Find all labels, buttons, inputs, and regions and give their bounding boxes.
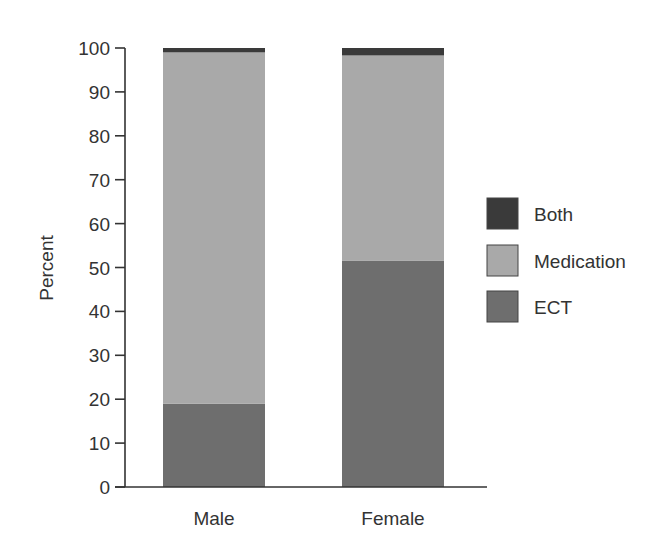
y-tick-label: 60 <box>89 214 110 235</box>
bar-female <box>342 48 444 487</box>
legend-label-ect: ECT <box>534 297 572 318</box>
y-tick-label: 40 <box>89 301 110 322</box>
bar-male <box>163 48 265 487</box>
y-tick-label: 0 <box>99 477 110 498</box>
bar-segment-ect <box>163 404 265 487</box>
legend: BothMedicationECT <box>487 198 626 322</box>
y-tick-label: 30 <box>89 345 110 366</box>
x-category-label: Male <box>193 508 234 529</box>
y-axis: 0102030405060708090100 <box>78 38 125 498</box>
bar-segment-both <box>342 48 444 55</box>
legend-label-medication: Medication <box>534 251 626 272</box>
bar-segment-ect <box>342 261 444 487</box>
bar-segment-medication <box>342 55 444 260</box>
y-tick-label: 80 <box>89 126 110 147</box>
y-axis-title: Percent <box>36 235 57 301</box>
x-axis: MaleFemale <box>115 487 487 529</box>
stacked-bar-chart: 0102030405060708090100 MaleFemale Percen… <box>0 0 672 545</box>
x-category-label: Female <box>361 508 424 529</box>
y-tick-label: 90 <box>89 82 110 103</box>
y-tick-label: 20 <box>89 389 110 410</box>
legend-swatch-both <box>487 198 518 229</box>
bars-group <box>163 48 444 487</box>
legend-label-both: Both <box>534 204 573 225</box>
y-tick-label: 70 <box>89 170 110 191</box>
legend-swatch-medication <box>487 245 518 276</box>
y-tick-label: 100 <box>78 38 110 59</box>
bar-segment-both <box>163 48 265 52</box>
bar-segment-medication <box>163 52 265 403</box>
y-tick-label: 10 <box>89 433 110 454</box>
legend-swatch-ect <box>487 291 518 322</box>
y-tick-label: 50 <box>89 258 110 279</box>
